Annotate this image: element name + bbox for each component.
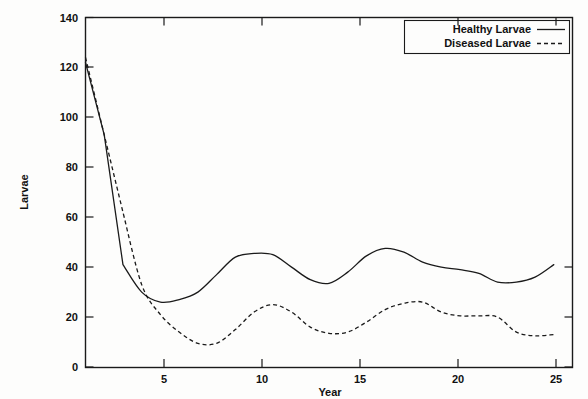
chart-figure: 0 20 40 60 80 100 120 140 5 10 15 20 25 …	[0, 0, 588, 399]
y-tick-label: 60	[66, 211, 78, 223]
series-line-healthy-larvae	[86, 62, 554, 302]
y-axis-tick-labels: 0 20 40 60 80 100 120 140	[60, 12, 78, 373]
series-line-diseased-larvae	[86, 57, 554, 344]
y-tick-label: 20	[66, 311, 78, 323]
legend-label-diseased-larvae: Diseased Larvae	[444, 37, 531, 49]
y-tick-label: 0	[72, 361, 78, 373]
plot-frame	[86, 18, 573, 368]
legend-label-healthy-larvae: Healthy Larvae	[453, 23, 531, 35]
chart-legend: Healthy Larvae Diseased Larvae	[405, 21, 570, 54]
line-chart: 0 20 40 60 80 100 120 140 5 10 15 20 25 …	[0, 0, 588, 399]
x-tick-marks	[164, 18, 556, 368]
y-tick-label: 80	[66, 161, 78, 173]
y-axis-title: Larvae	[18, 174, 30, 209]
x-tick-label: 15	[354, 373, 366, 385]
y-tick-label: 140	[60, 12, 78, 24]
x-tick-label: 5	[161, 373, 167, 385]
x-axis-title: Year	[318, 386, 342, 398]
y-tick-marks	[86, 18, 573, 368]
y-tick-label: 100	[60, 111, 78, 123]
x-axis-tick-labels: 5 10 15 20 25	[161, 373, 562, 385]
x-tick-label: 20	[452, 373, 464, 385]
x-tick-label: 25	[550, 373, 562, 385]
y-tick-label: 120	[60, 61, 78, 73]
x-tick-label: 10	[256, 373, 268, 385]
y-tick-label: 40	[66, 261, 78, 273]
